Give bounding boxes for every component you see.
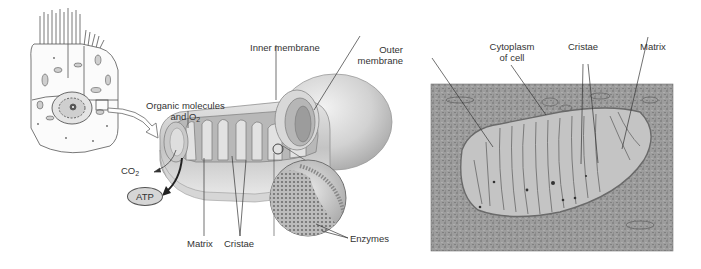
label-co: CO [121,165,135,176]
label-organic-molecules: Organic molecules and O2 [146,100,225,125]
label-inner-membrane: Inner membrane [250,42,320,53]
label-cristae-right: Cristae [568,41,598,52]
label-enzymes: Enzymes [350,233,389,244]
microvilli-icon [40,8,104,48]
label-cytoplasm-line2: of cell [486,52,538,63]
membrane-cutaway [275,90,319,150]
atp-badge: ATP [127,187,163,206]
label-and-o: and O [170,111,196,122]
label-matrix-left: Matrix [187,238,213,249]
nucleus-icon [52,92,92,124]
label-organic-molecules-line2: and O2 [146,111,225,125]
label-outer-membrane-line2: membrane [357,55,403,66]
label-organic-molecules-line1: Organic molecules [146,100,225,111]
label-outer-membrane: Outer membrane [357,44,403,66]
label-co2: CO2 [121,165,139,179]
label-cristae-left: Cristae [224,238,254,249]
label-o2-subscript: 2 [196,116,200,123]
label-outer-membrane-line1: Outer [357,44,403,55]
label-cytoplasm: Cytoplasm of cell [486,41,538,63]
cell-sketch [31,8,118,153]
label-co2-subscript: 2 [135,170,139,177]
enzyme-detail-inset [270,160,346,240]
label-matrix-right: Matrix [640,41,666,52]
label-cytoplasm-line1: Cytoplasm [486,41,538,52]
